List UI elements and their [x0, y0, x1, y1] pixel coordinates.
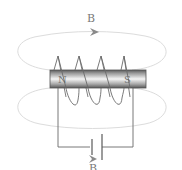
field-line-bottom: [18, 88, 166, 129]
electromagnet-diagram: B B N S: [0, 0, 182, 170]
field-line-top: [18, 32, 166, 71]
field-label-top: B: [87, 12, 95, 25]
circuit-wire: [58, 88, 133, 147]
battery-icon: [92, 134, 102, 160]
field-label-bottom: B: [89, 162, 97, 170]
